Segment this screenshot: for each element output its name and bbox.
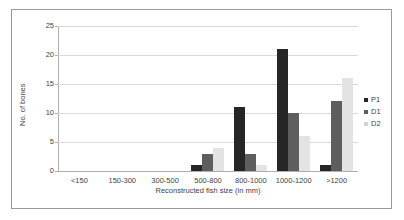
y-tick-label: 10 (46, 109, 54, 117)
x-tick-label: 300-500 (144, 176, 187, 185)
y-axis-tick-labels: 0510152025 (12, 10, 54, 210)
y-tick-mark (55, 26, 58, 27)
x-tick-label: 500-800 (187, 176, 230, 185)
x-tick-label: <150 (58, 176, 101, 185)
legend-swatch-icon (364, 98, 368, 102)
y-tick-label: 15 (46, 80, 54, 88)
x-tick-label: 150-300 (101, 176, 144, 185)
x-tick-label: 800-1000 (229, 176, 272, 185)
y-tick-mark (55, 171, 58, 172)
y-tick-mark (55, 142, 58, 143)
y-tick-label: 0 (50, 167, 54, 175)
legend-label: D2 (371, 120, 381, 128)
legend-label: D1 (371, 108, 381, 116)
x-tick-label: 1000-1200 (272, 176, 315, 185)
x-axis-category-labels: <150150-300300-500500-800800-10001000-12… (58, 26, 358, 206)
legend-item-d2[interactable]: D2 (364, 118, 392, 130)
y-tick-mark (55, 113, 58, 114)
y-tick-label: 5 (50, 138, 54, 146)
y-tick-label: 25 (46, 22, 54, 30)
legend-item-d1[interactable]: D1 (364, 106, 392, 118)
legend-item-p1[interactable]: P1 (364, 94, 392, 106)
y-tick-label: 20 (46, 51, 54, 59)
chart-legend: P1D1D2 (364, 94, 392, 130)
x-tick-label: >1200 (315, 176, 358, 185)
legend-swatch-icon (364, 110, 368, 114)
y-tick-mark (55, 84, 58, 85)
legend-swatch-icon (364, 122, 368, 126)
chart-figure-frame: No. of bones 0510152025 <150150-300300-5… (11, 9, 392, 209)
legend-label: P1 (371, 96, 380, 104)
x-axis-title: Reconstructed fish size (in mm) (58, 186, 358, 195)
y-tick-mark (55, 55, 58, 56)
